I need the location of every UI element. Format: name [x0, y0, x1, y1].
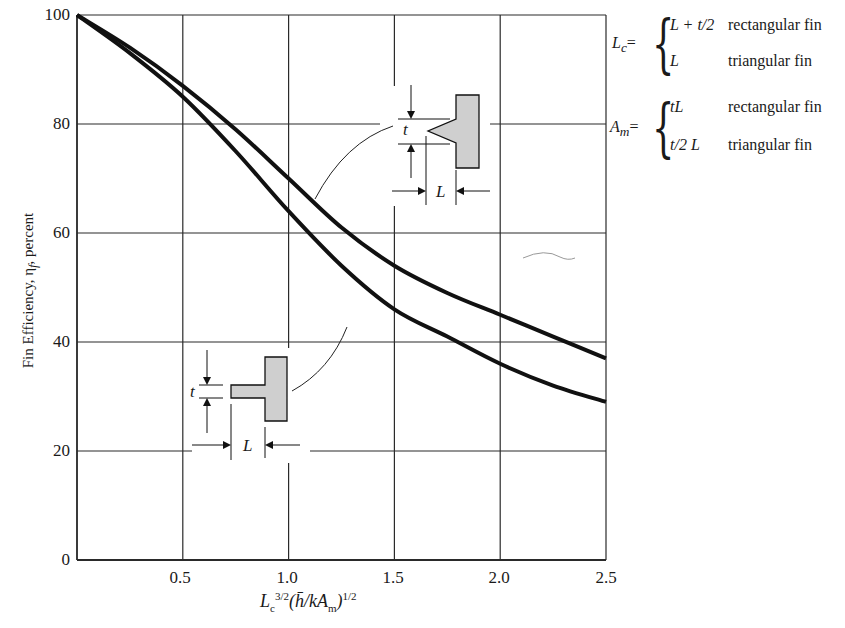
x-tick: 0.5 [160, 568, 200, 588]
rectangular-fin-sketch [192, 327, 347, 463]
am-base: A [610, 118, 620, 135]
y-tick: 100 [30, 5, 70, 25]
triangular-fin-curve [77, 15, 606, 358]
y-axis-label-tail: , percent [20, 213, 36, 265]
x-tick: 2.5 [586, 568, 626, 588]
am-expr-tri: t/2 L [670, 136, 700, 154]
sketch-t-label-bottom: t [190, 382, 195, 402]
sketch-L-label-top: L [436, 182, 445, 202]
x-label-L: L [260, 591, 270, 611]
sketch-L-label-bottom: L [243, 436, 252, 456]
triangular-fin-sketch [315, 85, 490, 206]
lc-eq: = [627, 34, 636, 51]
x-tick: 2.0 [479, 568, 519, 588]
x-tick: 1.0 [267, 568, 307, 588]
x-label-sub-c: c [270, 602, 275, 614]
am-desc-rect: rectangular fin [728, 98, 822, 116]
lc-expr-tri: L [670, 52, 679, 70]
x-label-sup-1-2: 1/2 [343, 590, 357, 602]
y-tick: 0 [30, 550, 70, 570]
lc-desc-tri: triangular fin [728, 52, 812, 70]
x-label-sub-m: m [328, 602, 337, 614]
rectangular-fin-curve [77, 15, 606, 402]
sketch-t-label-top: t [403, 120, 408, 140]
stray-mark [523, 253, 575, 260]
fin-efficiency-chart [0, 0, 845, 628]
y-tick: 20 [30, 441, 70, 461]
x-label-sup-3-2: 3/2 [275, 590, 289, 602]
x-axis-label: Lc3/2(h̄/kAm)1/2 [260, 590, 357, 614]
grid-lines [77, 15, 606, 560]
y-axis-label-text: Fin Efficiency, η [20, 268, 36, 368]
x-tick: 1.5 [373, 568, 413, 588]
lc-expr-rect: L + t/2 [670, 16, 714, 34]
y-axis-label-sub: f [26, 264, 40, 267]
lc-desc-rect: rectangular fin [728, 16, 822, 34]
am-label: Am= [610, 118, 638, 140]
lc-label: Lc= [612, 34, 636, 56]
am-eq: = [629, 118, 638, 135]
x-label-mid: (h̄/kA [289, 591, 328, 611]
lc-base: L [612, 34, 621, 51]
am-expr-rect: tL [670, 98, 683, 116]
y-tick: 80 [30, 114, 70, 134]
am-desc-tri: triangular fin [728, 136, 812, 154]
am-sub: m [620, 124, 630, 139]
efficiency-curves [77, 15, 606, 402]
y-axis-label: Fin Efficiency, ηf, percent [20, 191, 41, 391]
